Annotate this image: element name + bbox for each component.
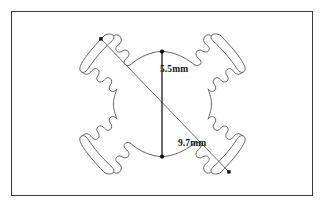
arm-tip-arc-bottom-left (80, 136, 114, 174)
dimension-endpoint-marker-diagonal-start (99, 37, 102, 40)
figure-root: 5.5mm 9.7mm (0, 0, 325, 211)
arm-side-profile-top-right (208, 69, 242, 92)
dimension-label-vertical: 5.5mm (160, 65, 188, 75)
center-arc-left (113, 89, 116, 119)
arm-tip-arc-bottom-right (211, 136, 245, 174)
dimension-endpoint-marker-vertical-top (160, 50, 164, 54)
arm-tip-arc-top-right (211, 34, 245, 72)
center-arc-right (208, 89, 211, 119)
arm-tip-arc-top-left (80, 34, 114, 72)
technical-drawing-canvas (0, 0, 325, 211)
arm-side-profile-bottom-left (83, 117, 117, 140)
dimension-diagonal-span (99, 37, 230, 173)
arm-side-profile-top-left (83, 69, 117, 92)
arm-profile-bottom-left (113, 142, 130, 173)
dimension-label-diagonal: 9.7mm (178, 139, 206, 149)
dimension-line-diagonal (101, 39, 229, 172)
dimension-endpoint-marker-vertical-bottom (160, 155, 164, 159)
arm-profile-top-right (195, 35, 212, 66)
dimension-endpoint-marker-diagonal-end (227, 170, 230, 173)
arm-side-profile-bottom-right (208, 117, 242, 140)
